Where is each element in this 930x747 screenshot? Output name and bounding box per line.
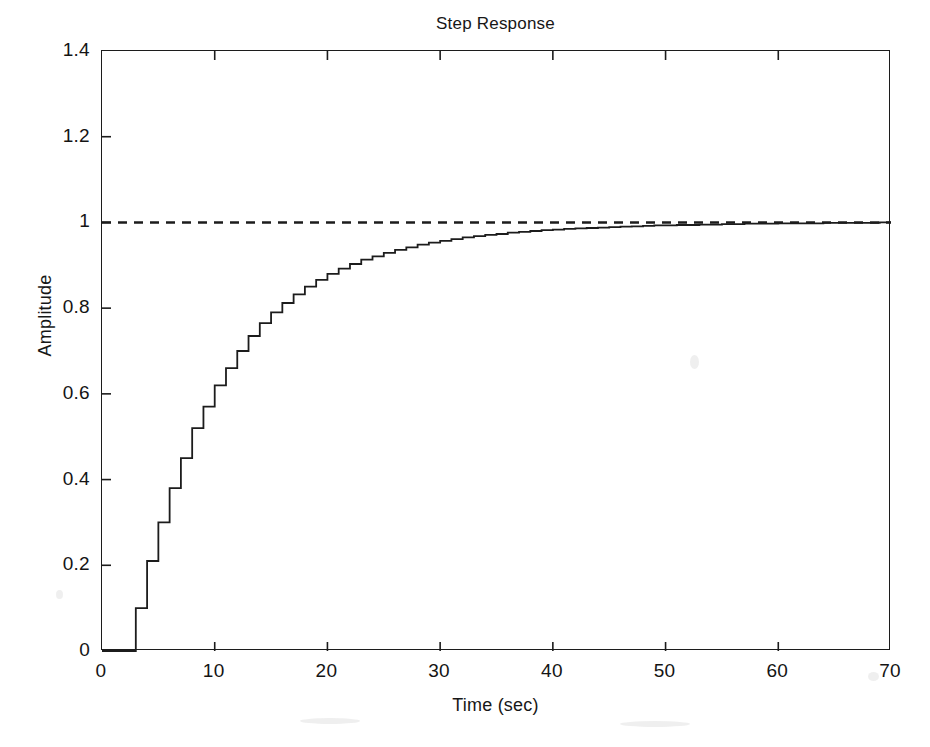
x-axis-title: Time (sec) [101, 695, 890, 716]
y-tick-label: 1.2 [20, 125, 90, 147]
y-tick-label: 0 [20, 639, 90, 661]
step-response-curve [102, 222, 891, 651]
y-tick-label: 0.4 [20, 468, 90, 490]
y-tick-label: 1 [20, 210, 90, 232]
x-axis-tick-labels: 010203040506070 [101, 660, 890, 688]
x-tick-label: 20 [286, 660, 366, 682]
chart-title: Step Response [101, 14, 890, 34]
plot-canvas [102, 51, 891, 651]
y-axis-title: Amplitude [35, 236, 56, 396]
paper-speckle [56, 590, 63, 599]
axis-ticks [102, 51, 778, 651]
x-tick-label: 10 [174, 660, 254, 682]
y-tick-label: 1.4 [20, 39, 90, 61]
paper-speckle [300, 718, 360, 724]
x-tick-label: 50 [625, 660, 705, 682]
x-tick-label: 70 [850, 660, 930, 682]
plot-area [101, 50, 890, 650]
paper-speckle [690, 355, 699, 369]
x-tick-label: 60 [737, 660, 817, 682]
x-tick-label: 30 [399, 660, 479, 682]
y-tick-label: 0.2 [20, 553, 90, 575]
step-response-figure: Step Response 00.20.40.60.811.21.4 01020… [0, 0, 930, 747]
x-tick-label: 0 [61, 660, 141, 682]
paper-speckle [620, 721, 690, 727]
paper-speckle [868, 672, 879, 681]
x-tick-label: 40 [512, 660, 592, 682]
